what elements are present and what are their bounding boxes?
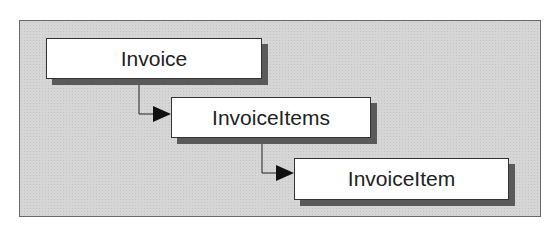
arrowhead-icon [276,165,294,181]
connector-invoice-to-invoiceitems [139,78,171,122]
connector-invoiceitems-to-invoiceitem [262,138,294,181]
node-invoice[interactable]: Invoice [46,38,262,79]
node-label: InvoiceItems [212,106,330,130]
node-label: Invoice [121,47,188,71]
node-label: InvoiceItem [348,167,455,191]
arrowhead-icon [153,106,171,122]
node-invoice-items[interactable]: InvoiceItems [171,97,371,138]
node-invoice-item[interactable]: InvoiceItem [294,158,509,200]
